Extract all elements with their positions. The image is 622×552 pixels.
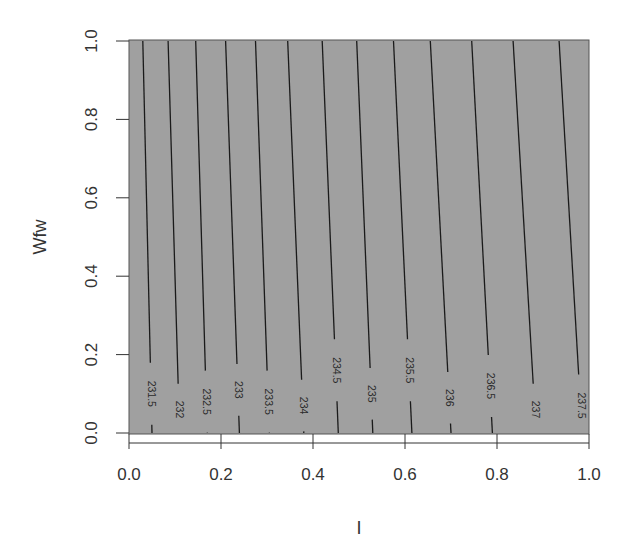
contour-label: 234.5: [331, 357, 343, 383]
contour-label: 233.5: [263, 388, 275, 414]
y-tick-label: 1.0: [82, 29, 101, 53]
y-tick-label: 0.4: [82, 264, 101, 288]
x-tick-label: 0.0: [117, 465, 141, 484]
contour-label: 235: [366, 385, 378, 403]
y-tick-label: 0.2: [82, 343, 101, 367]
contour-label: 233: [233, 381, 245, 399]
y-tick-label: 0.6: [82, 186, 101, 210]
contour-label: 237.5: [576, 392, 588, 418]
x-axis-title: I: [356, 518, 361, 538]
contour-label: 234: [298, 397, 310, 415]
contour-label: 232.5: [201, 388, 213, 414]
contour-label: 237: [530, 401, 542, 419]
x-tick-label: 0.4: [301, 465, 325, 484]
y-tick-label: 0.0: [82, 421, 101, 445]
contour-label: 236.5: [485, 373, 497, 399]
x-tick-label: 1.0: [577, 465, 601, 484]
x-tick-label: 0.8: [485, 465, 509, 484]
contour-plot: 231.5232232.5233233.5234234.5235235.5236…: [0, 0, 622, 552]
contour-label: 236: [444, 389, 456, 407]
x-tick-label: 0.6: [393, 465, 417, 484]
y-axis-title: Wfw: [30, 219, 50, 255]
y-tick-label: 0.8: [82, 108, 101, 132]
contour-label: 235.5: [404, 357, 416, 383]
contour-label: 231.5: [146, 381, 158, 407]
contour-label: 232: [174, 401, 186, 419]
x-tick-label: 0.2: [209, 465, 233, 484]
